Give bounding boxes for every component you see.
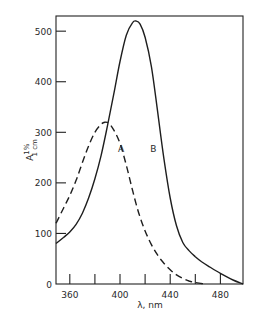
y-tick-label: 0 (46, 280, 52, 290)
y-tick-label: 200 (35, 178, 52, 188)
x-tick-label: 440 (162, 290, 179, 300)
y-axis-title-sup: 1% (23, 143, 31, 154)
curve-label-B: B (150, 144, 156, 154)
y-axis-title-sub: 1 cm (31, 139, 39, 157)
y-tick-label: 300 (35, 128, 52, 138)
curve-labels: AB (118, 144, 156, 154)
y-tick-label: 100 (35, 229, 52, 239)
x-axis-title: λ, nm (137, 300, 163, 310)
x-tick-label: 400 (111, 290, 128, 300)
x-tick-label: 480 (212, 290, 229, 300)
y-tick-label: 400 (35, 77, 52, 87)
absorption-spectrum-chart: 0100200300400500 360400440480 AB λ, nm A… (0, 0, 260, 326)
y-tick-label: 500 (35, 27, 52, 37)
x-axis-ticks: 360400440480 (61, 274, 229, 300)
y-axis-title: A1%1 cm (23, 139, 39, 161)
curve-label-A: A (118, 144, 125, 154)
x-tick-label: 360 (61, 290, 78, 300)
curve-A (56, 122, 205, 284)
y-axis-ticks: 0100200300400500 (35, 27, 66, 290)
svg-text:A1%1 cm: A1%1 cm (23, 139, 39, 161)
